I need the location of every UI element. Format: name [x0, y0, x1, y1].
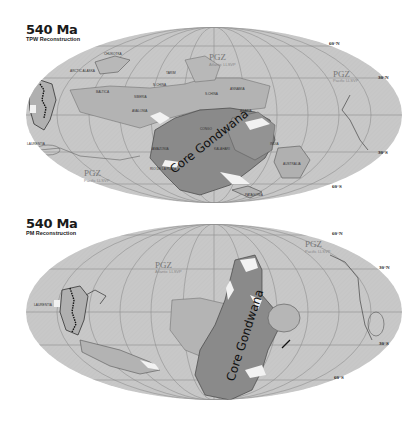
pgz-sublabel: Atlantic LLSVP — [155, 269, 182, 274]
lat-label-60n: 60°N — [329, 41, 340, 46]
continent-label: AUSTRALIA — [283, 162, 302, 166]
continent-label: BALTICA — [96, 90, 110, 94]
lat-label-60s: 60°S — [334, 375, 344, 380]
continent-label: ARABIA — [240, 109, 253, 113]
continent-label: LAURENTIA — [27, 142, 46, 146]
continent-label: KALAHARI — [214, 147, 230, 151]
continent-label: CHUKOTKA — [104, 52, 123, 56]
continent-label: AVALONIA — [132, 109, 148, 113]
pgz-sublabel: Atlantic LLSVP — [209, 62, 236, 67]
continent-label: SIBERIA — [134, 95, 147, 99]
continent-label: ANNAMIA — [230, 87, 245, 91]
continent-label: TARIM — [166, 71, 176, 75]
pgz-sublabel: Pacific LLSVP — [84, 178, 110, 183]
continent-label: S.CHINA — [205, 92, 219, 96]
lat-label-30n: 30°N — [378, 75, 389, 80]
continent-label: LAURENTIA — [34, 303, 53, 307]
panel-title: 540 Ma — [26, 23, 78, 36]
panel-subtitle: PM Reconstruction — [26, 230, 76, 236]
continent-label: RIO DE LA PLATA — [150, 167, 177, 171]
lat-label-30n: 30°N — [379, 265, 390, 270]
pm-reconstruction-panel: Core Gondwana PGZ Atlantic LLSVP PGZ Pac… — [0, 200, 415, 424]
pgz-sublabel: Pacific LLSVP — [333, 78, 359, 83]
continent-label: INDIA — [270, 142, 279, 146]
pgz-label: PGZ — [209, 52, 226, 62]
tpw-reconstruction-panel: Core Gondwana PGZ Atlantic LLSVP PGZ Pac… — [0, 0, 415, 205]
panel-title: 540 Ma — [26, 217, 78, 230]
continent-label: ARCTIC ALASKA — [70, 69, 96, 73]
lat-label-30s: 30°S — [379, 341, 389, 346]
continent-label: PATAGONIA — [245, 193, 264, 197]
pgz-label: PGZ — [305, 239, 322, 249]
continent-label: CONGO — [200, 127, 213, 131]
continent-label: N.CHINA — [153, 83, 167, 87]
panel-subtitle: TPW Reconstruction — [26, 36, 80, 42]
lat-label-60s: 60°S — [332, 184, 342, 189]
pgz-sublabel: Pacific LLSVP — [305, 249, 331, 254]
lat-label-30s: 30°S — [378, 150, 388, 155]
continent-label: AMAZONIA — [152, 147, 170, 151]
lat-label-60n: 60°N — [332, 231, 343, 236]
pgz-label: PGZ — [84, 168, 101, 178]
